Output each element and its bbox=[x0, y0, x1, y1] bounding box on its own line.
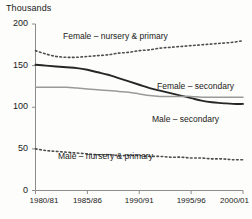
female-nursery-primary-label: Female – nursery & primary bbox=[63, 31, 168, 41]
series-lines bbox=[36, 41, 244, 160]
male-nursery-primary-label: Male – nursery & primary bbox=[58, 151, 153, 161]
axis-lines bbox=[36, 24, 244, 191]
x-axis-ticks bbox=[36, 191, 244, 195]
y-axis-tick-label: 100 bbox=[2, 101, 28, 111]
male-secondary-label: Male – secondary bbox=[152, 114, 219, 124]
y-axis-tick-label: 150 bbox=[2, 60, 28, 70]
y-axis-tick-label: 200 bbox=[2, 18, 28, 28]
series-line bbox=[36, 41, 244, 58]
female-secondary-label: Female – secondary bbox=[157, 81, 234, 91]
y-axis-tick-label: 0 bbox=[2, 185, 28, 195]
y-axis-tick-label: 50 bbox=[2, 143, 28, 153]
y-axis-ticks bbox=[32, 24, 36, 191]
line-chart: Thousands 050100150200 1980/811985/86199… bbox=[0, 0, 252, 219]
x-axis-tick-label: 2000/01 bbox=[189, 196, 249, 205]
